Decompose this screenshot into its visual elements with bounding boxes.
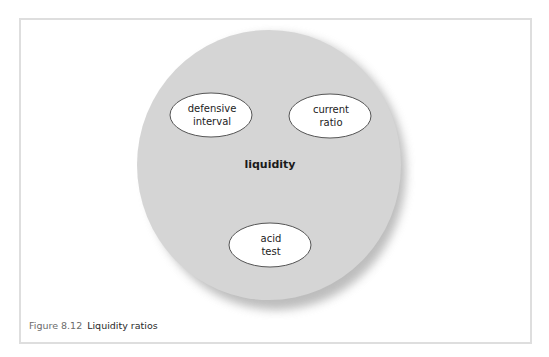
figure-number: Figure 8.12 — [29, 320, 82, 331]
node-acid-test: acid test — [261, 232, 282, 258]
liquidity-diagram — [0, 0, 549, 357]
node-defensive-interval-line1: defensive — [188, 102, 237, 115]
node-current-ratio-line2: ratio — [313, 116, 349, 129]
node-current-ratio: current ratio — [313, 103, 349, 129]
node-defensive-interval-line2: interval — [188, 115, 237, 128]
liquidity-label: liquidity — [244, 158, 295, 171]
node-acid-test-line2: test — [261, 245, 282, 258]
figure-title: Liquidity ratios — [87, 320, 158, 331]
node-current-ratio-line1: current — [313, 103, 349, 116]
node-defensive-interval: defensive interval — [188, 102, 237, 128]
figure-caption: Figure 8.12Liquidity ratios — [29, 319, 158, 333]
node-acid-test-line1: acid — [261, 232, 282, 245]
